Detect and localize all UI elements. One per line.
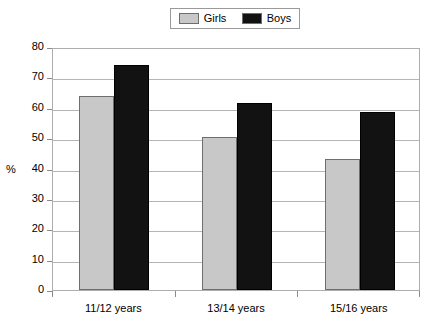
y-axis-tick: 60 <box>0 109 52 110</box>
bar-girls-group-3 <box>325 159 360 290</box>
bar-boys-group-3 <box>360 112 395 290</box>
legend-label-boys: Boys <box>267 13 291 24</box>
bars-container <box>53 49 419 290</box>
x-tick-mark <box>419 291 420 297</box>
x-tick-mark <box>52 291 53 297</box>
x-axis-label-1: 11/12 years <box>85 303 142 314</box>
bar-boys-group-2 <box>237 103 272 290</box>
legend-swatch-girls <box>179 13 199 24</box>
y-axis-tick: 50 <box>0 139 52 140</box>
y-axis: 01020304050607080% <box>0 48 52 291</box>
legend-swatch-boys <box>242 13 262 24</box>
y-axis-tick: 0 <box>0 291 52 292</box>
x-axis: 11/12 years13/14 years15/16 years <box>52 291 420 327</box>
y-tick-label: 30 <box>32 193 44 204</box>
bar-boys-group-1 <box>114 65 149 290</box>
y-axis-tick: 80 <box>0 48 52 49</box>
y-tick-label: 70 <box>32 71 44 82</box>
y-tick-label: 60 <box>32 102 44 113</box>
legend-entry-girls: Girls <box>179 13 227 24</box>
y-axis-tick: 10 <box>0 261 52 262</box>
y-axis-title: % <box>6 164 16 175</box>
bar-girls-group-2 <box>202 137 237 290</box>
y-tick-label: 0 <box>38 284 44 295</box>
y-tick-label: 40 <box>32 163 44 174</box>
y-tick-label: 80 <box>32 41 44 52</box>
y-tick-label: 50 <box>32 132 44 143</box>
y-tick-label: 20 <box>32 223 44 234</box>
x-tick-mark <box>175 291 176 297</box>
chart-legend: Girls Boys <box>170 8 300 29</box>
legend-label-girls: Girls <box>204 13 227 24</box>
x-axis-label-2: 13/14 years <box>207 303 264 314</box>
y-axis-tick: 70 <box>0 78 52 79</box>
legend-entry-boys: Boys <box>242 13 291 24</box>
chart-plot-area <box>52 48 420 291</box>
x-tick-mark <box>297 291 298 297</box>
y-axis-tick: 30 <box>0 200 52 201</box>
x-axis-label-3: 15/16 years <box>330 303 387 314</box>
y-axis-tick: 20 <box>0 230 52 231</box>
bar-girls-group-1 <box>79 96 114 290</box>
y-tick-label: 10 <box>32 254 44 265</box>
